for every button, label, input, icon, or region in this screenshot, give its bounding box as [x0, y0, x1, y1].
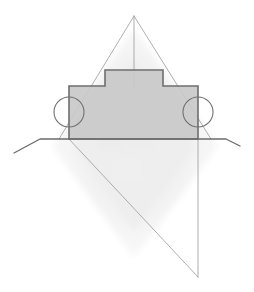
watermark-block-e	[110, 156, 144, 182]
geometric-line-drawing	[0, 0, 254, 292]
figure-root: Geometric line drawing of a wheeled bloc…	[0, 0, 254, 292]
watermark-group	[52, 28, 218, 258]
wheeled-block-body	[69, 70, 198, 139]
